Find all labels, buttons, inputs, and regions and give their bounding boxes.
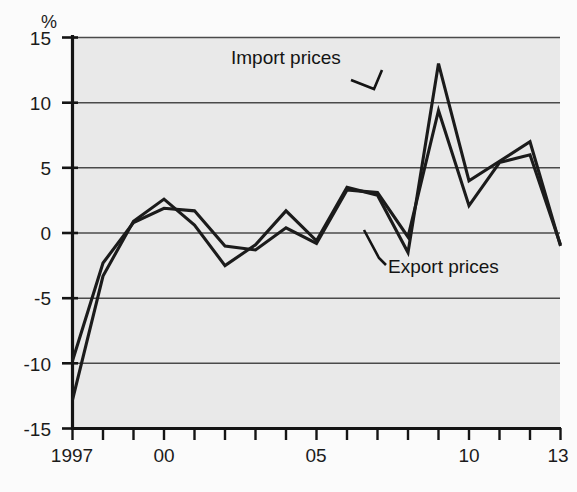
x-tick-label-13: 13 xyxy=(547,445,568,466)
y-tick-label-10: 10 xyxy=(30,93,51,114)
y-tick-label-minus15: -15 xyxy=(24,419,51,440)
x-tick-label-05: 05 xyxy=(305,445,326,466)
x-tick-label-10: 10 xyxy=(458,445,479,466)
import-prices-label: Import prices xyxy=(231,47,341,68)
line-chart: % 15 10 5 0 -5 -10 -15 1997 00 05 10 13 … xyxy=(0,0,577,492)
export-prices-label: Export prices xyxy=(388,256,499,277)
y-tick-label-5: 5 xyxy=(40,158,51,179)
y-tick-label-minus5: -5 xyxy=(34,288,51,309)
y-tick-label-minus10: -10 xyxy=(24,354,51,375)
y-tick-label-0: 0 xyxy=(40,223,51,244)
x-tick-label-00: 00 xyxy=(153,445,174,466)
chart-page: % 15 10 5 0 -5 -10 -15 1997 00 05 10 13 … xyxy=(0,0,577,492)
y-tick-label-15: 15 xyxy=(30,28,51,49)
x-tick-label-1997: 1997 xyxy=(51,445,93,466)
